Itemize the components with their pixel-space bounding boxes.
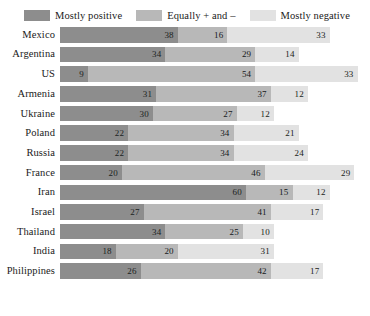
bar-segment-negative[interactable]: 12 xyxy=(293,185,330,201)
bar-value-equal: 20 xyxy=(164,246,177,256)
bar-value-equal: 29 xyxy=(242,49,255,59)
bar-segment-equal[interactable]: 15 xyxy=(246,185,293,201)
bar-segment-equal[interactable]: 42 xyxy=(141,263,271,279)
bar-segment-negative[interactable]: 14 xyxy=(255,47,298,63)
bar-segment-positive[interactable]: 34 xyxy=(60,47,165,63)
bar-segment-negative[interactable]: 21 xyxy=(234,125,299,141)
bar-value-negative: 17 xyxy=(310,207,323,217)
bar-segment-positive[interactable]: 60 xyxy=(60,185,246,201)
bar-segment-positive[interactable]: 31 xyxy=(60,86,156,102)
stacked-bar: 264217 xyxy=(60,263,370,279)
bar-segment-negative[interactable]: 29 xyxy=(265,165,355,181)
bar-segment-equal[interactable]: 46 xyxy=(122,165,265,181)
bar-value-negative: 17 xyxy=(310,266,323,276)
stacked-bar: 274117 xyxy=(60,204,370,220)
bar-value-positive: 31 xyxy=(143,89,156,99)
chart-row: Ukraine302712 xyxy=(0,105,370,123)
bar-segment-equal[interactable]: 54 xyxy=(88,66,255,82)
category-label-armenia: Armenia xyxy=(0,88,60,100)
bar-segment-positive[interactable]: 34 xyxy=(60,224,165,240)
category-label-india: India xyxy=(0,245,60,257)
bar-value-positive: 30 xyxy=(140,109,153,119)
bar-value-negative: 21 xyxy=(285,128,298,138)
bar-value-positive: 34 xyxy=(152,227,165,237)
bar-value-equal: 27 xyxy=(223,109,236,119)
bar-segment-positive[interactable]: 18 xyxy=(60,244,116,260)
category-label-philippines: Philippines xyxy=(0,265,60,277)
bar-value-negative: 12 xyxy=(316,187,329,197)
bar-segment-negative[interactable]: 33 xyxy=(255,66,357,82)
chart-row: Russia223424 xyxy=(0,144,370,162)
bar-segment-equal[interactable]: 34 xyxy=(128,145,233,161)
bar-value-equal: 41 xyxy=(257,207,270,217)
stacked-bar: 182031 xyxy=(60,244,370,260)
stacked-bar: 381633 xyxy=(60,27,370,43)
category-label-iran: Iran xyxy=(0,186,60,198)
chart-row: Poland223421 xyxy=(0,124,370,142)
bar-value-equal: 34 xyxy=(220,148,233,158)
bar-value-negative: 31 xyxy=(260,246,273,256)
bar-segment-equal[interactable]: 29 xyxy=(165,47,255,63)
stacked-bar: 302712 xyxy=(60,106,370,122)
bar-value-negative: 33 xyxy=(316,30,329,40)
stacked-bar: 223421 xyxy=(60,125,370,141)
bar-value-positive: 26 xyxy=(127,266,140,276)
bar-segment-equal[interactable]: 27 xyxy=(153,106,237,122)
chart-row: India182031 xyxy=(0,243,370,261)
bar-value-equal: 54 xyxy=(242,69,255,79)
bar-segment-negative[interactable]: 24 xyxy=(234,145,308,161)
bar-segment-equal[interactable]: 25 xyxy=(165,224,243,240)
bar-segment-positive[interactable]: 22 xyxy=(60,145,128,161)
bar-segment-positive[interactable]: 26 xyxy=(60,263,141,279)
bar-segment-positive[interactable]: 38 xyxy=(60,27,178,43)
stacked-bar: 313712 xyxy=(60,86,370,102)
bar-segment-equal[interactable]: 20 xyxy=(116,244,178,260)
bar-value-positive: 60 xyxy=(233,187,246,197)
bar-value-positive: 9 xyxy=(79,69,88,79)
bar-segment-equal[interactable]: 34 xyxy=(128,125,233,141)
bar-segment-negative[interactable]: 17 xyxy=(271,204,324,220)
bar-value-equal: 42 xyxy=(257,266,270,276)
bar-value-equal: 15 xyxy=(279,187,292,197)
bar-segment-positive[interactable]: 27 xyxy=(60,204,144,220)
bar-segment-positive[interactable]: 20 xyxy=(60,165,122,181)
bar-value-positive: 18 xyxy=(102,246,115,256)
bar-segment-negative[interactable]: 12 xyxy=(237,106,274,122)
legend-label-equal: Equally + and – xyxy=(167,10,235,21)
legend-item-equal[interactable]: Equally + and – xyxy=(136,10,235,21)
chart-row: US95433 xyxy=(0,65,370,83)
bar-segment-equal[interactable]: 41 xyxy=(144,204,271,220)
bar-segment-positive[interactable]: 9 xyxy=(60,66,88,82)
bar-segment-negative[interactable]: 33 xyxy=(227,27,329,43)
bar-value-equal: 34 xyxy=(220,128,233,138)
legend-swatch-positive xyxy=(24,10,50,21)
stacked-bar: 95433 xyxy=(60,66,370,82)
stacked-bar: 601512 xyxy=(60,185,370,201)
bar-segment-negative[interactable]: 12 xyxy=(271,86,308,102)
chart-row: France204629 xyxy=(0,164,370,182)
bar-value-negative: 12 xyxy=(260,109,273,119)
bar-value-negative: 10 xyxy=(260,227,273,237)
bar-value-positive: 22 xyxy=(115,148,128,158)
chart-row: Thailand342510 xyxy=(0,223,370,241)
legend-item-negative[interactable]: Mostly negative xyxy=(250,10,350,21)
bar-value-negative: 14 xyxy=(285,49,298,59)
bar-segment-negative[interactable]: 10 xyxy=(243,224,274,240)
bar-value-negative: 33 xyxy=(344,69,357,79)
legend-label-negative: Mostly negative xyxy=(281,10,350,21)
bar-segment-negative[interactable]: 31 xyxy=(178,244,274,260)
bar-segment-equal[interactable]: 16 xyxy=(178,27,228,43)
category-label-thailand: Thailand xyxy=(0,226,60,238)
legend-swatch-negative xyxy=(250,10,276,21)
bar-value-positive: 27 xyxy=(130,207,143,217)
legend-item-positive[interactable]: Mostly positive xyxy=(24,10,122,21)
stacked-bar-chart: Mostly positiveEqually + and –Mostly neg… xyxy=(0,0,370,316)
stacked-bar: 342510 xyxy=(60,224,370,240)
stacked-bar: 223424 xyxy=(60,145,370,161)
bar-segment-equal[interactable]: 37 xyxy=(156,86,271,102)
bar-segment-positive[interactable]: 30 xyxy=(60,106,153,122)
category-label-israel: Israel xyxy=(0,206,60,218)
bar-segment-negative[interactable]: 17 xyxy=(271,263,324,279)
chart-legend: Mostly positiveEqually + and –Mostly neg… xyxy=(0,0,370,20)
bar-segment-positive[interactable]: 22 xyxy=(60,125,128,141)
